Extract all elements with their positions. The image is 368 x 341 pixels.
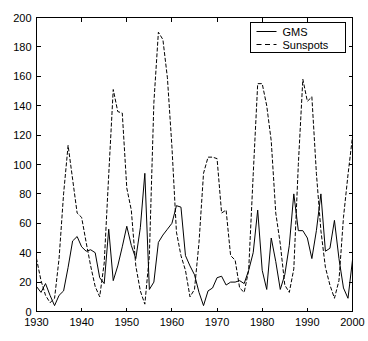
chart-figure: 1930194019501960197019801990200002040608…	[0, 0, 368, 341]
chart-legend: GMSSunspots	[251, 23, 346, 53]
y-tick-label: 200	[13, 12, 31, 24]
x-tick-label: 1950	[115, 316, 139, 328]
legend-label-gms: GMS	[283, 26, 308, 38]
y-tick-label: 0	[25, 306, 31, 318]
y-tick-label: 40	[19, 247, 31, 259]
chart-canvas: 1930194019501960197019801990200002040608…	[0, 0, 368, 341]
series-group	[37, 32, 353, 305]
axis-box	[37, 18, 353, 312]
x-tick-label: 1980	[250, 316, 274, 328]
y-tick-label: 120	[13, 129, 31, 141]
x-tick-label: 1960	[160, 316, 184, 328]
x-tick-label: 1990	[295, 316, 319, 328]
series-line-sunspots	[37, 32, 353, 304]
legend-label-sunspots: Sunspots	[283, 39, 329, 51]
x-tick-label: 1970	[205, 316, 229, 328]
y-tick-label: 160	[13, 70, 31, 82]
y-tick-label: 60	[19, 217, 31, 229]
y-tick-label: 100	[13, 159, 31, 171]
y-tick-label: 80	[19, 188, 31, 200]
y-tick-label: 20	[19, 276, 31, 288]
x-tick-label: 1940	[69, 316, 93, 328]
y-tick-label: 180	[13, 41, 31, 53]
x-tick-label: 2000	[340, 316, 364, 328]
y-tick-label: 140	[13, 100, 31, 112]
